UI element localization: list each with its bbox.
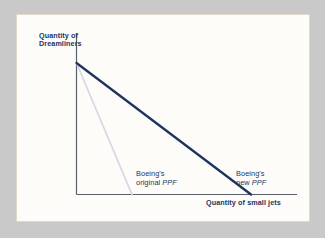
- slide-canvas: Quantity of Dreamliners Quantity of smal…: [0, 0, 325, 238]
- new-ppf-label: Boeing's new PPF: [236, 170, 266, 187]
- new-ppf-label-line2-prefix: new: [236, 178, 252, 187]
- y-axis-title-line2: Dreamliners: [39, 39, 82, 48]
- new-ppf-label-line1: Boeing's: [236, 169, 265, 178]
- y-axis-title: Quantity of Dreamliners: [39, 32, 82, 49]
- original-ppf-label-abbr: PPF: [162, 178, 177, 187]
- original-ppf-label: Boeing's original PPF: [136, 170, 177, 187]
- figure-panel: Quantity of Dreamliners Quantity of smal…: [16, 14, 310, 222]
- original-ppf-label-line2-prefix: original: [136, 178, 162, 187]
- new-ppf-label-abbr: PPF: [252, 178, 267, 187]
- x-axis-title: Quantity of small jets: [206, 199, 281, 207]
- original-ppf-label-line1: Boeing's: [136, 169, 165, 178]
